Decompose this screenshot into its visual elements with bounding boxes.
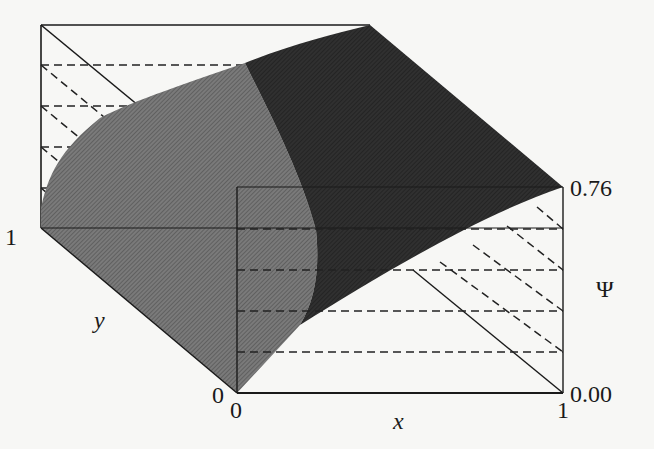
z-tick-max: 0.76 <box>570 175 612 201</box>
y-axis-label: y <box>92 307 105 333</box>
x-tick-max: 1 <box>557 397 569 423</box>
z-tick-min: 0.00 <box>570 381 612 407</box>
y-tick-min: 0 <box>212 382 224 408</box>
z-axis-label: Ψ <box>596 276 614 302</box>
x-tick-min: 0 <box>230 397 242 423</box>
surface-plot: 0.76 0.00 Ψ 1 y 0 0 1 x <box>0 0 654 449</box>
y-tick-max: 1 <box>5 224 17 250</box>
x-axis-label: x <box>392 408 404 434</box>
